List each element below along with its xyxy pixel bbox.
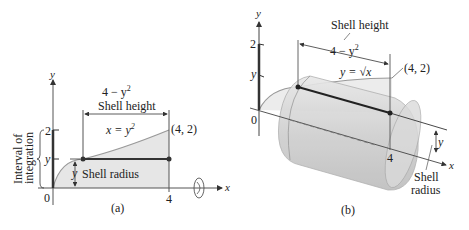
interval-label-2: integration <box>22 132 36 184</box>
shell-radius-label-a: Shell radius <box>82 167 139 181</box>
x-axis-label-a: x <box>224 181 230 193</box>
point-left-b <box>296 85 301 90</box>
height-expr-a: 4 − y2 <box>102 84 131 99</box>
origin-label-a: 0 <box>44 191 50 205</box>
caption-a: (a) <box>111 201 124 215</box>
radius-leader-b <box>426 145 432 170</box>
point-left-a <box>81 157 86 162</box>
curve-label-b: y = √x <box>339 65 372 79</box>
curve-label-a: x = y2 <box>105 122 135 137</box>
shell-height-label-a: Shell height <box>98 99 156 113</box>
panel-a: 4 − y2 Shell height x = y2 (4, 2) y Shel… <box>11 68 230 215</box>
x-axis-label-b: x <box>448 159 454 171</box>
point-right-b <box>388 111 393 116</box>
origin-label-b: 0 <box>251 113 257 127</box>
radius-label-1-b: Shell <box>414 170 439 184</box>
tick-2-label-b: 2 <box>250 37 256 51</box>
shell-height-label-b: Shell height <box>331 18 389 32</box>
caption-b: (b) <box>341 203 355 217</box>
shell-height-leader <box>344 33 350 40</box>
point-label-a: (4, 2) <box>171 122 197 136</box>
diagram-canvas: 4 − y2 Shell height x = y2 (4, 2) y Shel… <box>0 0 469 230</box>
interval-brace <box>37 130 44 188</box>
tick-4-label-b: 4 <box>387 151 393 165</box>
tick-y-label-a: y <box>44 152 51 166</box>
panel-b: Shell height 4 − y2 y = √x (4, 2) y Shel… <box>250 7 454 217</box>
radius-label-2-b: radius <box>411 183 441 197</box>
point-leader-b <box>392 68 403 78</box>
point-right-a <box>167 157 172 162</box>
radius-var-a: y <box>71 166 78 180</box>
tick-4-label-a: 4 <box>166 192 172 206</box>
radius-var-b: y <box>437 135 444 149</box>
tick-y-label-b: y <box>250 67 257 81</box>
point-label-b: (4, 2) <box>404 61 430 75</box>
tick-2-label-a: 2 <box>45 124 51 138</box>
y-axis-label-b: y <box>255 7 261 19</box>
y-axis-label-a: y <box>49 68 55 80</box>
height-expr-b: 4 − y2 <box>330 43 359 58</box>
